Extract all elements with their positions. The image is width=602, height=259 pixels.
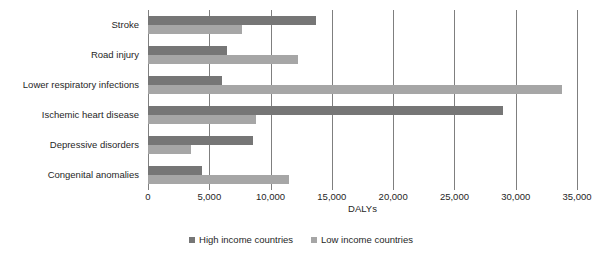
category-axis: StrokeRoad injuryLower respiratory infec… bbox=[0, 10, 145, 190]
x-tick-label: 15,000 bbox=[317, 191, 346, 202]
bar-low-income[interactable] bbox=[148, 25, 242, 34]
bar-low-income[interactable] bbox=[148, 55, 298, 64]
x-tick-label: 10,000 bbox=[256, 191, 285, 202]
plot-area bbox=[148, 10, 577, 190]
bar-high-income[interactable] bbox=[148, 46, 227, 55]
x-tick-label: 5,000 bbox=[197, 191, 221, 202]
legend-item[interactable]: High income countries bbox=[189, 234, 293, 245]
chart-legend: High income countriesLow income countrie… bbox=[0, 234, 602, 245]
gridline bbox=[454, 10, 455, 190]
bar-group bbox=[148, 46, 577, 64]
x-tick-label: 25,000 bbox=[440, 191, 469, 202]
category-label: Depressive disorders bbox=[0, 139, 139, 150]
value-axis-line bbox=[148, 10, 149, 190]
bar-group bbox=[148, 76, 577, 94]
category-label: Lower respiratory infections bbox=[0, 79, 139, 90]
gridline bbox=[516, 10, 517, 190]
category-label: Congenital anomalies bbox=[0, 169, 139, 180]
bar-high-income[interactable] bbox=[148, 76, 222, 85]
category-label: Road injury bbox=[0, 49, 139, 60]
gridline bbox=[332, 10, 333, 190]
bar-high-income[interactable] bbox=[148, 16, 316, 25]
bar-high-income[interactable] bbox=[148, 166, 202, 175]
bar-group bbox=[148, 136, 577, 154]
x-tick-label: 30,000 bbox=[501, 191, 530, 202]
gridline bbox=[209, 10, 210, 190]
gridline bbox=[271, 10, 272, 190]
legend-label: Low income countries bbox=[321, 234, 413, 245]
bar-high-income[interactable] bbox=[148, 106, 503, 115]
bar-low-income[interactable] bbox=[148, 175, 289, 184]
legend-label: High income countries bbox=[199, 234, 293, 245]
bar-low-income[interactable] bbox=[148, 115, 256, 124]
bar-group bbox=[148, 106, 577, 124]
bar-group bbox=[148, 166, 577, 184]
x-tick-label: 35,000 bbox=[562, 191, 591, 202]
legend-item[interactable]: Low income countries bbox=[311, 234, 413, 245]
bar-low-income[interactable] bbox=[148, 145, 191, 154]
bar-low-income[interactable] bbox=[148, 85, 562, 94]
x-tick-label: 20,000 bbox=[379, 191, 408, 202]
x-axis-title: DALYs bbox=[148, 203, 577, 214]
category-label: Stroke bbox=[0, 19, 139, 30]
gridline bbox=[577, 10, 578, 190]
legend-swatch-icon bbox=[189, 237, 195, 243]
category-label: Ischemic heart disease bbox=[0, 109, 139, 120]
dalys-grouped-bar-chart: StrokeRoad injuryLower respiratory infec… bbox=[0, 0, 602, 259]
bar-high-income[interactable] bbox=[148, 136, 253, 145]
gridline bbox=[393, 10, 394, 190]
bar-group bbox=[148, 16, 577, 34]
x-tick-label: 0 bbox=[145, 191, 150, 202]
legend-swatch-icon bbox=[311, 237, 317, 243]
